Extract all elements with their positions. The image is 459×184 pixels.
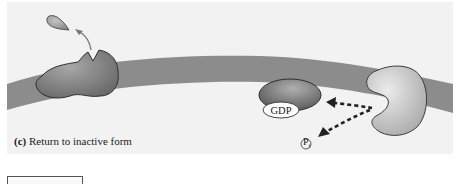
panel-label: (c)	[14, 135, 26, 147]
diagram-canvas	[0, 0, 459, 184]
gdp-label: GDP	[263, 103, 299, 118]
phosphate-label: Pi	[303, 136, 311, 150]
receptor	[36, 50, 118, 98]
next-panel-edge	[7, 176, 83, 184]
return-arrow	[334, 103, 372, 108]
phosphate-arrow-head-icon	[318, 127, 330, 137]
effector-enzyme	[367, 66, 427, 135]
release-arrow	[80, 32, 91, 50]
ligand	[47, 16, 69, 30]
caption-text: Return to inactive form	[29, 135, 132, 147]
figure-caption: (c) Return to inactive form	[14, 135, 132, 147]
phosphate-arrow	[326, 110, 370, 132]
return-arrow-head-icon	[326, 97, 336, 108]
